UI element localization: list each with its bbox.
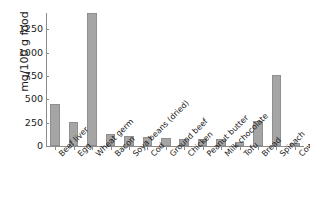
bar [87,13,97,146]
x-axis-tick-mark [111,147,112,150]
bar-chart-figure: mg/100 g food 025050075010001250 Beef li… [0,0,310,219]
x-axis-tick-mark [129,147,130,150]
x-axis-tick-mark [276,147,277,150]
x-axis-tick-mark [92,147,93,150]
y-axis-tick-label: 250 [25,117,43,128]
y-axis-tick-label: 0 [37,140,43,151]
x-axis-tick-mark [203,147,204,150]
x-axis-tick-mark [240,147,241,150]
y-axis-tick-label: 1250 [19,23,43,34]
x-axis-tick-mark [184,147,185,150]
bar [50,104,60,146]
x-axis-tick-mark [55,147,56,150]
y-axis-tick-label: 750 [25,70,43,81]
x-axis-tick-mark [221,147,222,150]
x-axis-tick-mark [74,147,75,150]
x-axis-tick-mark [258,147,259,150]
x-axis-tick-mark [166,147,167,150]
y-axis-tick-label: 1000 [19,47,43,58]
x-axis-tick-mark [295,147,296,150]
y-axis-tick-label: 500 [25,93,43,104]
x-axis-tick-mark [147,147,148,150]
